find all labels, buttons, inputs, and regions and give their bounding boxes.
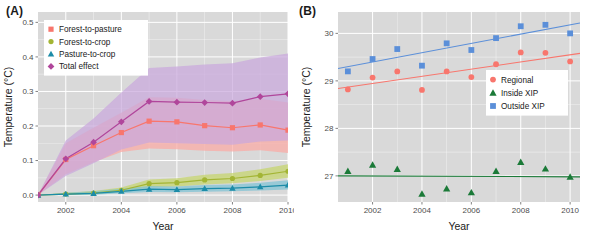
y-tick-label: 0.0: [22, 191, 34, 200]
data-point: [518, 49, 524, 55]
y-tick-label: 0.5: [22, 18, 34, 27]
y-tick-label: 28: [325, 124, 334, 133]
data-point: [119, 130, 124, 135]
panel-b-label: (B): [299, 4, 316, 18]
panel-b-chart: 2728293020022004200620082010YearTemperat…: [294, 0, 588, 234]
data-point: [345, 87, 351, 93]
legend-marker: [490, 103, 496, 109]
y-tick-label: 29: [325, 77, 334, 86]
legend-label: Pasture-to-crop: [59, 50, 116, 59]
y-tick-label: 0.1: [22, 156, 34, 165]
y-tick-label: 0.2: [22, 122, 34, 131]
data-point: [493, 61, 499, 67]
data-point: [567, 59, 573, 65]
x-tick-label: 2008: [512, 206, 530, 215]
legend-marker: [490, 77, 496, 83]
data-point: [202, 123, 207, 128]
legend-label: Outside XIP: [501, 102, 545, 111]
data-point: [493, 35, 499, 41]
x-tick-label: 2010: [561, 206, 579, 215]
data-point: [258, 173, 263, 178]
legend-marker: [48, 39, 53, 44]
data-point: [394, 68, 400, 74]
legend: RegionalInside XIPOutside XIP: [486, 70, 568, 116]
data-point: [345, 68, 351, 74]
legend-label: Forest-to-crop: [59, 38, 111, 47]
data-point: [230, 125, 235, 130]
data-point: [468, 47, 474, 53]
data-point: [543, 22, 549, 28]
data-point: [370, 56, 376, 62]
data-point: [468, 74, 474, 80]
data-point: [419, 63, 425, 69]
panel-a-chart: 0.00.10.20.30.40.520022004200620082010Ye…: [0, 0, 294, 234]
legend-marker: [48, 27, 53, 32]
panel-a-label: (A): [6, 4, 23, 18]
x-tick-label: 2006: [462, 206, 480, 215]
data-point: [174, 119, 179, 124]
data-point: [202, 177, 207, 182]
data-point: [419, 87, 425, 93]
panel-a: (A) 0.00.10.20.30.40.5200220042006200820…: [0, 0, 294, 234]
data-point: [567, 30, 573, 36]
data-point: [174, 180, 179, 185]
y-axis-title: Temperature (°C): [2, 67, 14, 148]
data-point: [147, 119, 152, 124]
legend-label: Forest-to-pasture: [59, 25, 122, 34]
x-axis-title: Year: [152, 220, 174, 232]
y-tick-label: 0.4: [22, 53, 34, 62]
y-tick-label: 27: [325, 172, 334, 181]
legend: Forest-to-pastureForest-to-cropPasture-t…: [44, 20, 148, 76]
data-point: [518, 23, 524, 29]
x-tick-label: 2008: [224, 206, 242, 215]
y-tick-label: 0.3: [22, 87, 34, 96]
data-point: [370, 75, 376, 81]
data-point: [285, 128, 290, 133]
panel-b: (B) 2728293020022004200620082010YearTemp…: [294, 0, 588, 234]
x-tick-label: 2010: [279, 206, 294, 215]
x-tick-label: 2004: [112, 206, 130, 215]
legend-label: Total effect: [59, 62, 99, 71]
y-axis-title: Temperature (°C): [300, 67, 312, 148]
data-point: [394, 46, 400, 52]
legend-label: Inside XIP: [501, 89, 539, 98]
data-point: [543, 50, 549, 56]
x-tick-label: 2004: [413, 206, 431, 215]
y-tick-label: 30: [325, 29, 334, 38]
figure-container: (A) 0.00.10.20.30.40.5200220042006200820…: [0, 0, 589, 234]
data-point: [258, 122, 263, 127]
data-point: [444, 68, 450, 74]
data-point: [230, 176, 235, 181]
x-tick-label: 2002: [57, 206, 75, 215]
legend-label: Regional: [501, 76, 533, 85]
data-point: [147, 181, 152, 186]
x-tick-label: 2006: [168, 206, 186, 215]
x-tick-label: 2002: [364, 206, 382, 215]
x-axis-title: Year: [448, 220, 470, 232]
data-point: [444, 40, 450, 46]
data-point: [285, 169, 290, 174]
